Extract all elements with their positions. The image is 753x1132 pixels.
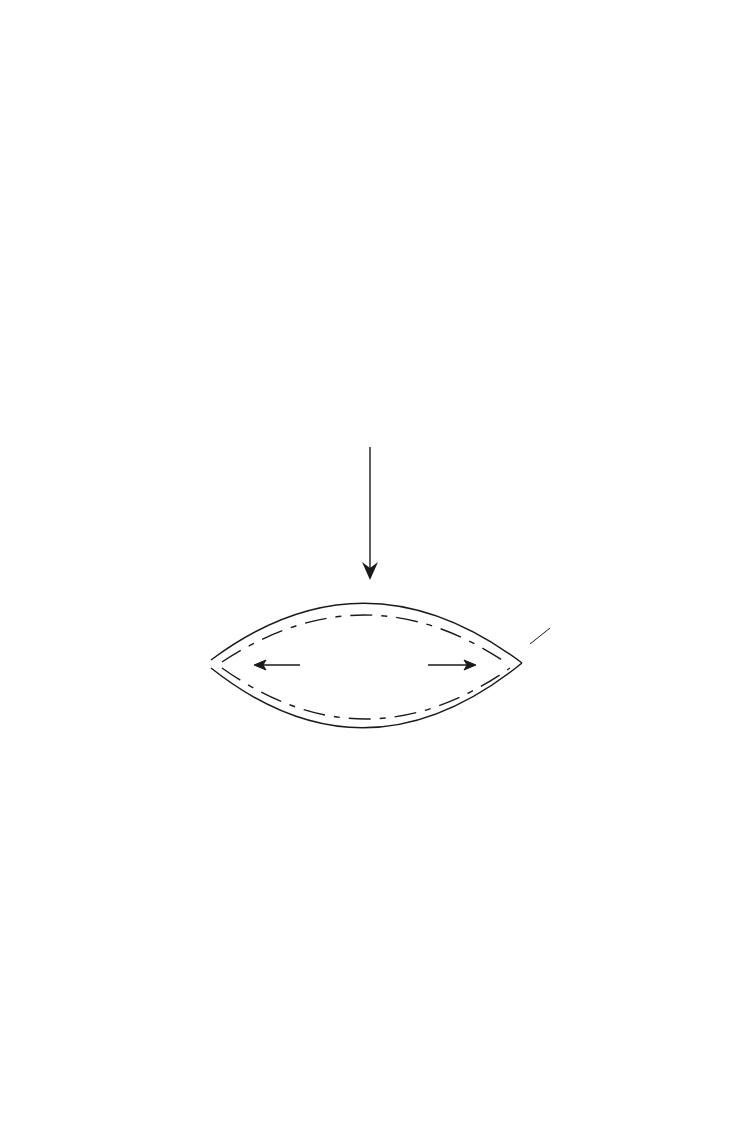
replication-arrow <box>362 447 378 580</box>
unwound-label-leader <box>530 628 550 644</box>
daughter-strand-bottom <box>222 668 510 719</box>
parental-strand-bottom <box>211 663 522 728</box>
replication-bubble <box>211 603 550 728</box>
daughter-strand-top <box>222 615 505 662</box>
parental-strand-top <box>211 603 522 663</box>
diagram-canvas <box>0 0 753 1132</box>
